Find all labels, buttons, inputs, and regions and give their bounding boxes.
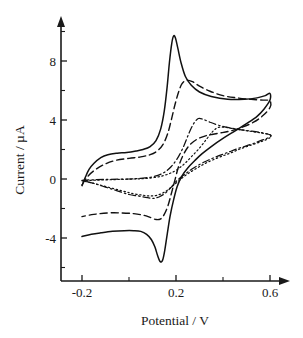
cv-curve-curve-1 <box>82 36 271 262</box>
x-tick-label: 0.2 <box>168 285 184 300</box>
axes-group <box>57 16 290 285</box>
x-tick-label: 0.6 <box>262 285 279 300</box>
x-axis-label: Potential / V <box>141 313 209 328</box>
y-axis-label: Current / µA <box>12 125 27 195</box>
y-tick-label: 4 <box>50 113 57 128</box>
cv-curve-curve-2 <box>82 80 271 220</box>
y-axis-tick-labels: -4048 <box>45 54 56 246</box>
y-tick-label: 0 <box>50 172 57 187</box>
x-axis-arrow-icon <box>279 277 290 285</box>
x-axis-tick-labels: -0.20.20.6 <box>72 285 279 300</box>
y-axis-arrow-icon <box>57 16 65 27</box>
x-tick-label: -0.2 <box>72 285 93 300</box>
y-tick-label: -4 <box>45 231 56 246</box>
y-tick-label: 8 <box>50 54 57 69</box>
data-curves-group <box>82 36 271 262</box>
y-axis-ticks <box>61 32 67 268</box>
cv-chart-svg: -4048 -0.20.20.6 Potential / V Current /… <box>0 0 303 338</box>
cyclic-voltammogram-figure: -4048 -0.20.20.6 Potential / V Current /… <box>0 0 303 338</box>
x-axis-ticks <box>82 275 270 281</box>
